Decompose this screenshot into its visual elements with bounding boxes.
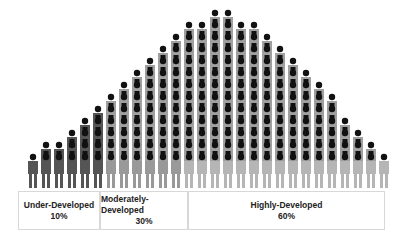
category-name: Highly-Developed: [251, 200, 323, 211]
category-name: Under-Developed: [24, 200, 94, 211]
category-moderately-developed: Moderately-Developed 30%: [100, 191, 188, 230]
category-under-developed: Under-Developed 10%: [18, 191, 100, 230]
category-percent: 10%: [50, 211, 67, 222]
person-icon: [379, 154, 389, 188]
category-highly-developed: Highly-Developed 60%: [188, 191, 385, 230]
category-percent: 30%: [135, 216, 152, 227]
category-label-row: Under-Developed 10% Moderately-Developed…: [18, 191, 385, 230]
category-name: Moderately-Developed: [101, 194, 187, 216]
person-icon: [28, 154, 38, 188]
category-percent: 60%: [278, 211, 295, 222]
pictogram-bell-curve: [0, 0, 405, 190]
